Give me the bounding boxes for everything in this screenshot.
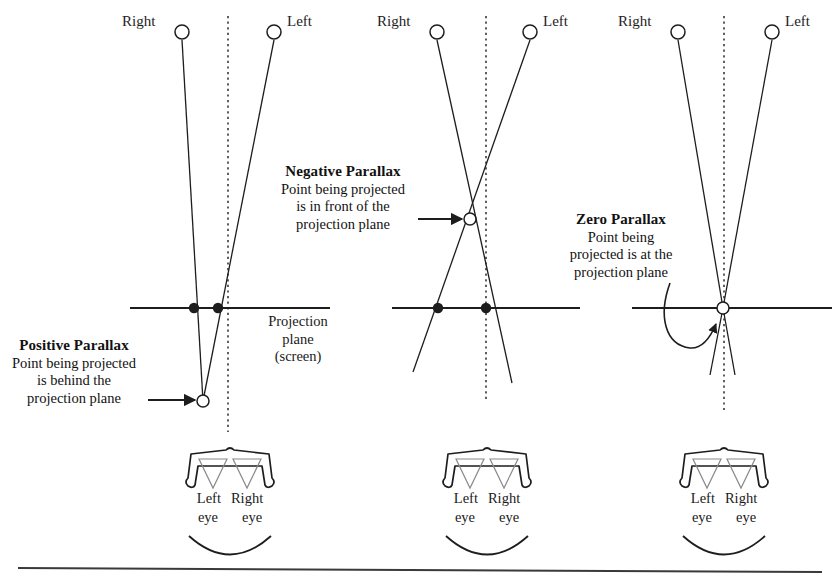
left-eye-marker	[765, 25, 779, 39]
callout-line-2-zero: projected is at the	[545, 246, 697, 263]
glasses-subcaption-right-zero: eye	[736, 509, 756, 525]
callout-zero-parallax: Zero Parallax Point being projected is a…	[545, 210, 697, 281]
glasses-frame	[680, 448, 768, 487]
right-lens-triangle	[727, 459, 755, 488]
glasses-caption-positive: LeftRight eyeeye	[180, 489, 280, 527]
glasses-subcaption-right-negative: eye	[499, 509, 519, 525]
callout-curved-arrow	[664, 283, 716, 348]
glasses-subcaption-left-positive: eye	[198, 509, 218, 525]
top-label-left-eye-negative: Left	[543, 13, 568, 30]
callout-heading-positive: Positive Parallax	[0, 336, 148, 354]
callout-line-3-positive: projection plane	[0, 390, 148, 407]
ray-right-eye	[437, 40, 512, 383]
chin-arc	[189, 536, 271, 555]
left-lens-triangle	[199, 459, 227, 488]
projection-plane-caption-line-1: Projection	[250, 313, 346, 331]
callout-line-3-zero: projection plane	[545, 264, 697, 281]
glasses-caption-left-negative: Left	[454, 489, 478, 508]
glasses-caption-negative: LeftRight eyeeye	[437, 489, 537, 527]
top-label-left-eye-zero: Left	[785, 13, 810, 30]
left-lens-triangle	[456, 459, 484, 488]
callout-line-2-negative: is in front of the	[268, 198, 418, 215]
intersection-dot-right	[213, 303, 223, 313]
bottom-horizontal-rule	[18, 568, 822, 572]
glasses-subcaption-right-positive: eye	[242, 509, 262, 525]
right-eye-marker	[430, 25, 444, 39]
glasses-caption-right-negative: Right	[488, 489, 520, 508]
glasses-caption-right-zero: Right	[725, 489, 757, 508]
glasses-frame	[443, 448, 531, 487]
callout-heading-negative: Negative Parallax	[268, 162, 418, 180]
right-lens-triangle	[233, 459, 261, 488]
callout-heading-zero: Zero Parallax	[545, 210, 697, 228]
projection-plane-caption-line-2: plane	[250, 331, 346, 349]
callout-line-3-negative: projection plane	[268, 216, 418, 233]
glasses-subcaption-left-negative: eye	[455, 509, 475, 525]
right-eye-marker	[175, 25, 189, 39]
left-eye-marker	[523, 25, 537, 39]
glasses-subcaption-left-zero: eye	[692, 509, 712, 525]
glasses-frame	[186, 448, 274, 487]
projected-point-marker	[464, 213, 476, 225]
callout-line-2-positive: is behind the	[0, 372, 148, 389]
left-lens-triangle	[693, 459, 721, 488]
chin-arc	[446, 536, 528, 555]
ray-right-eye	[182, 40, 203, 401]
projected-point-marker	[717, 302, 729, 314]
glasses-caption-zero: LeftRight eyeeye	[674, 489, 774, 527]
panel-negative-parallax	[392, 16, 580, 400]
left-eye-marker	[267, 25, 281, 39]
projected-point-marker	[197, 395, 209, 407]
right-eye-marker	[671, 25, 685, 39]
projection-plane-caption-line-3: (screen)	[250, 348, 346, 366]
top-label-right-eye-positive: Right	[122, 13, 155, 30]
intersection-dot-left	[433, 303, 443, 313]
glasses-caption-left-positive: Left	[197, 489, 221, 508]
ray-right-eye-extension	[723, 308, 735, 375]
callout-line-1-positive: Point being projected	[0, 355, 148, 372]
intersection-dot-left	[189, 303, 199, 313]
top-label-right-eye-negative: Right	[377, 13, 410, 30]
callout-negative-parallax: Negative Parallax Point being projected …	[268, 162, 418, 233]
callout-line-1-zero: Point being	[545, 229, 697, 246]
callout-line-1-negative: Point being projected	[268, 181, 418, 198]
ray-left-eye	[723, 40, 772, 308]
top-label-left-eye-positive: Left	[287, 13, 312, 30]
projection-plane-caption: Projection plane (screen)	[250, 313, 346, 366]
intersection-dot-right	[481, 303, 491, 313]
callout-positive-parallax: Positive Parallax Point being projected …	[0, 336, 148, 407]
chin-arc	[683, 536, 765, 555]
ray-left-eye-extension	[710, 308, 723, 375]
glasses-caption-left-zero: Left	[691, 489, 715, 508]
ray-left-eye	[413, 40, 530, 372]
top-label-right-eye-zero: Right	[618, 13, 651, 30]
right-lens-triangle	[490, 459, 518, 488]
glasses-caption-right-positive: Right	[231, 489, 263, 508]
